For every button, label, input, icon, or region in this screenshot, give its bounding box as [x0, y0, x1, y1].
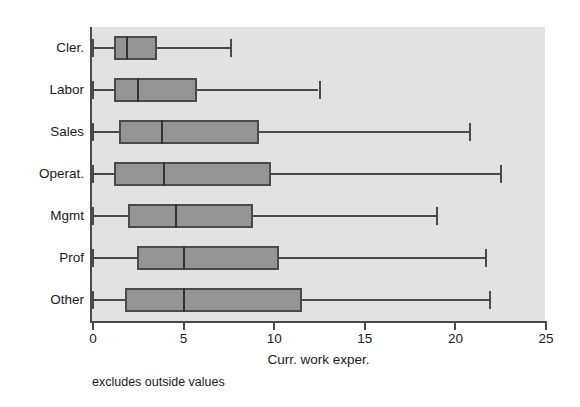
upper-whisker-line — [157, 47, 229, 49]
upper-whisker-line — [279, 257, 486, 259]
box-plot-item — [0, 281, 580, 319]
box-plot-item — [0, 239, 580, 277]
lower-whisker-line — [92, 299, 125, 301]
lower-whisker-line — [92, 215, 128, 217]
y-axis-tick-label: Cler. — [6, 41, 84, 55]
x-axis-tick — [183, 323, 185, 330]
median-line — [161, 120, 163, 144]
x-axis-tick-label: 10 — [254, 331, 294, 347]
y-axis-tick-labels: Cler.LaborSalesOperat.MgmtProfOther — [0, 0, 84, 407]
median-line — [183, 288, 185, 312]
chart-footnote: excludes outside values — [92, 375, 225, 389]
box-iqr — [114, 162, 272, 186]
upper-whisker-cap — [319, 81, 321, 99]
y-axis-tick-label: Mgmt — [6, 209, 84, 223]
y-axis-tick-label: Sales — [6, 125, 84, 139]
box-plot-item — [0, 71, 580, 109]
upper-whisker-cap — [500, 165, 502, 183]
x-axis-tick — [454, 323, 456, 330]
x-axis-tick-label: 25 — [526, 331, 566, 347]
lower-whisker-cap — [92, 165, 94, 183]
upper-whisker-line — [302, 299, 489, 301]
median-line — [126, 36, 128, 60]
upper-whisker-cap — [230, 39, 232, 57]
x-axis-tick-label: 5 — [164, 331, 204, 347]
lower-whisker-cap — [92, 39, 94, 57]
upper-whisker-cap — [436, 207, 438, 225]
lower-whisker-line — [92, 47, 114, 49]
median-line — [163, 162, 165, 186]
box-plot-item — [0, 113, 580, 151]
upper-whisker-line — [197, 89, 318, 91]
lower-whisker-cap — [92, 249, 94, 267]
upper-whisker-line — [259, 131, 469, 133]
box-iqr — [137, 246, 278, 270]
box-iqr — [114, 78, 197, 102]
x-axis-tick — [92, 323, 94, 330]
x-axis-tick — [545, 323, 547, 330]
x-axis-line — [90, 321, 547, 323]
lower-whisker-line — [92, 257, 137, 259]
y-axis-line — [90, 27, 92, 321]
lower-whisker-line — [92, 173, 114, 175]
median-line — [137, 78, 139, 102]
upper-whisker-cap — [485, 249, 487, 267]
box-iqr — [119, 120, 259, 144]
x-axis-tick-label: 0 — [73, 331, 113, 347]
box-plot-figure: Cler.LaborSalesOperat.MgmtProfOther 0510… — [0, 0, 580, 407]
box-plot-item — [0, 29, 580, 67]
y-axis-tick-label: Prof — [6, 251, 84, 265]
x-axis-tick — [364, 323, 366, 330]
box-plot-item — [0, 155, 580, 193]
x-axis-tick-label: 15 — [345, 331, 385, 347]
upper-whisker-cap — [489, 291, 491, 309]
lower-whisker-cap — [92, 81, 94, 99]
y-axis-tick-label: Labor — [6, 83, 84, 97]
lower-whisker-line — [92, 89, 114, 91]
x-axis-tick — [273, 323, 275, 330]
box-iqr — [114, 36, 157, 60]
lower-whisker-cap — [92, 123, 94, 141]
x-axis-tick-label: 20 — [435, 331, 475, 347]
x-axis-title: Curr. work exper. — [92, 352, 545, 367]
lower-whisker-line — [92, 131, 119, 133]
median-line — [183, 246, 185, 270]
lower-whisker-cap — [92, 207, 94, 225]
lower-whisker-cap — [92, 291, 94, 309]
box-iqr — [125, 288, 303, 312]
y-axis-tick-label: Operat. — [6, 167, 84, 181]
y-axis-tick-label: Other — [6, 293, 84, 307]
median-line — [175, 204, 177, 228]
upper-whisker-cap — [469, 123, 471, 141]
upper-whisker-line — [271, 173, 499, 175]
upper-whisker-line — [253, 215, 436, 217]
box-iqr — [128, 204, 253, 228]
box-plot-item — [0, 197, 580, 235]
